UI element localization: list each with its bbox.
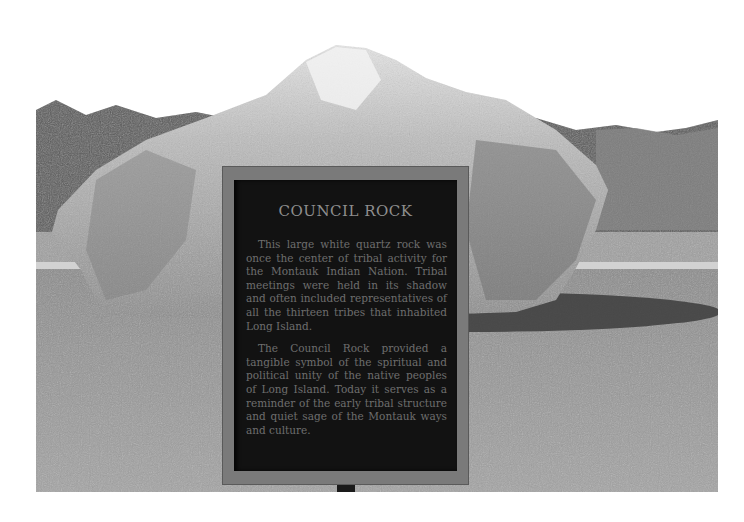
sign-post <box>337 485 355 492</box>
sign-paragraph-1: This large white quartz rock was once th… <box>246 238 447 333</box>
historical-marker-sign: COUNCIL ROCK This large white quartz roc… <box>222 166 469 485</box>
sign-paragraph-2: The Council Rock provided a tangible sym… <box>246 342 447 437</box>
sign-panel: COUNCIL ROCK This large white quartz roc… <box>234 180 457 471</box>
sign-title: COUNCIL ROCK <box>234 202 457 220</box>
sign-body: This large white quartz rock was once th… <box>246 238 447 446</box>
photograph: COUNCIL ROCK This large white quartz roc… <box>36 0 718 492</box>
